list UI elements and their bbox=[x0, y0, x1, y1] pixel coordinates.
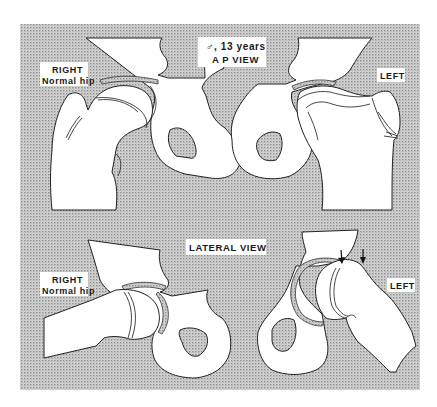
ap-header-line1: ♂, 13 years bbox=[206, 41, 266, 52]
ap-header-line2: A P VIEW bbox=[212, 54, 259, 65]
lateral-header: LATERAL VIEW bbox=[186, 239, 267, 255]
ap-left-label: LEFT bbox=[377, 68, 405, 82]
ap-right-label: RIGHT Normal hip bbox=[40, 62, 95, 86]
lat-right-label-line1: RIGHT bbox=[52, 275, 83, 285]
lat-right-label-line2: Normal hip bbox=[42, 286, 95, 296]
ap-left-label-text: LEFT bbox=[380, 71, 405, 81]
lateral-header-text: LATERAL VIEW bbox=[189, 242, 267, 253]
hip-illustration: ♂, 13 years A P VIEW RIGHT Normal hip LE… bbox=[0, 0, 437, 407]
ap-right-label-line1: RIGHT bbox=[52, 65, 83, 75]
lat-left-label: LEFT bbox=[387, 278, 415, 292]
lat-left-label-text: LEFT bbox=[390, 281, 415, 291]
lat-right-label: RIGHT Normal hip bbox=[40, 272, 95, 296]
ap-right-label-line2: Normal hip bbox=[42, 76, 95, 86]
ap-header: ♂, 13 years A P VIEW bbox=[198, 37, 266, 67]
